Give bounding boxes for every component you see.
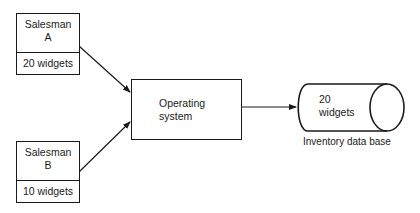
operating-system-label: Operating system	[159, 97, 205, 123]
salesman-b-quantity: 10 widgets	[17, 180, 79, 202]
database-cylinder-end	[370, 84, 404, 131]
salesman-a-box: Salesman A 20 widgets	[16, 13, 80, 75]
salesman-b-box: Salesman B 10 widgets	[16, 141, 80, 203]
salesman-b-title: Salesman B	[17, 142, 79, 172]
salesman-a-label: Salesman	[17, 18, 79, 31]
operating-system-box: Operating system	[131, 79, 242, 140]
salesman-a-id: A	[17, 31, 79, 44]
arrow-salesman-a-to-os	[79, 46, 130, 92]
os-label-line2: system	[159, 110, 205, 123]
inventory-db-count: 20	[319, 93, 355, 106]
inventory-db-caption: Inventory data base	[303, 136, 391, 147]
inventory-db-value: 20 widgets	[319, 93, 355, 119]
arrow-salesman-b-to-os	[79, 122, 130, 172]
salesman-a-quantity: 20 widgets	[17, 52, 79, 74]
os-label-line1: Operating	[159, 97, 205, 110]
salesman-b-label: Salesman	[17, 146, 79, 159]
inventory-db-unit: widgets	[319, 106, 355, 119]
salesman-a-title: Salesman A	[17, 14, 79, 44]
salesman-b-id: B	[17, 159, 79, 172]
